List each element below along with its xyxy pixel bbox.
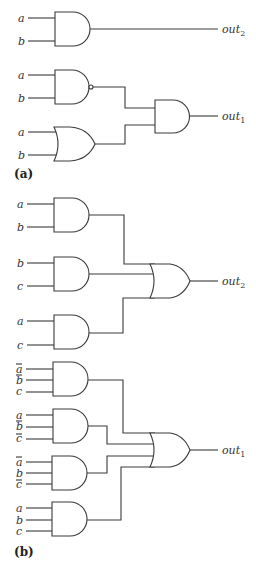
input-label: a [18, 126, 25, 139]
and-gate-icon [54, 315, 89, 349]
input-label: b [18, 92, 25, 105]
part-b-and-gate-5: a b c [16, 409, 156, 445]
or-gate-icon [150, 264, 190, 298]
output-label-out2: out2 [222, 275, 245, 290]
nand-gate-icon [55, 70, 89, 104]
part-b-and-gate-6: a b c [16, 456, 156, 491]
part-b-or-gate-out1: out1 [150, 433, 245, 467]
and-gate-icon [52, 502, 87, 536]
input-label: c [17, 339, 23, 352]
input-label: a [18, 12, 25, 25]
part-a: a b out2 a b a b [14, 12, 245, 181]
input-label: b [18, 35, 25, 48]
input-label: a [17, 315, 24, 328]
part-a-label: (a) [14, 167, 33, 181]
part-a-nand-gate: a b [18, 69, 155, 108]
and-gate-icon [55, 12, 90, 46]
part-a-and-gate-out1: out1 [155, 100, 245, 133]
and-gate-icon [52, 456, 87, 490]
part-b-or-gate-out2: out2 [150, 264, 245, 298]
input-label: a [17, 198, 24, 211]
and-gate-icon [155, 100, 190, 133]
part-a-or-gate: a b [18, 125, 155, 162]
and-gate-icon [53, 362, 88, 396]
input-label: c [17, 280, 23, 293]
input-label: c [16, 525, 22, 538]
output-label-out1: out1 [222, 444, 245, 459]
part-b-and-gate-3: a c [17, 298, 155, 352]
logic-circuit-diagram: a b out2 a b a b [0, 0, 256, 573]
and-gate-icon [53, 409, 88, 443]
input-label: b [17, 221, 24, 234]
and-gate-icon [54, 257, 89, 291]
input-label: c [16, 385, 22, 398]
or-gate-icon [150, 433, 190, 467]
or-gate-icon [54, 127, 95, 161]
input-label: a [18, 69, 25, 82]
output-label-out2: out2 [222, 23, 245, 38]
inverter-bubble-icon [89, 85, 93, 89]
input-label: b [18, 149, 25, 162]
output-label-out1: out1 [222, 110, 245, 125]
part-b-and-gate-1: a b [17, 198, 155, 264]
part-b-label: (b) [14, 545, 34, 559]
and-gate-icon [54, 198, 89, 232]
part-b-and-gate-2: b c [17, 257, 156, 293]
part-b: a b b c a c out2 [14, 198, 245, 559]
part-a-and-gate-out2: a b out2 [18, 12, 245, 48]
input-label: b [17, 257, 24, 270]
